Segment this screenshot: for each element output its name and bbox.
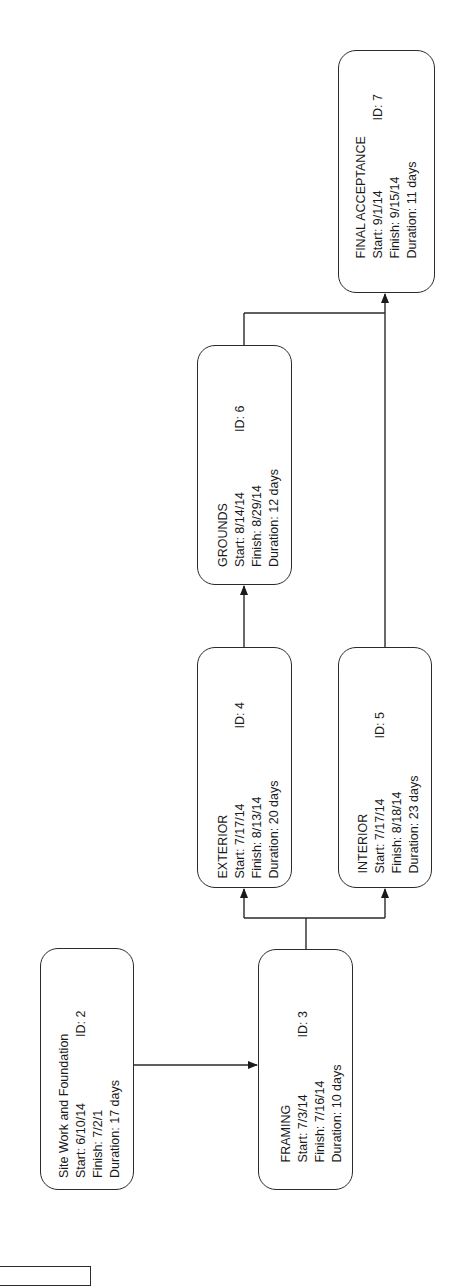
task-node-final[interactable]: FINAL ACCEPTANCEStart: 9/1/14Finish: 9/1…	[338, 50, 435, 293]
task-name: FRAMING	[277, 1104, 293, 1162]
task-name: Site Work and Foundation	[56, 1034, 72, 1178]
start-date: Start: 7/3/14	[294, 1094, 310, 1162]
task-name: FINAL ACCEPTANCE	[352, 136, 368, 258]
duration: Duration: 23 days	[406, 775, 422, 873]
duration: Duration: 17 days	[107, 1080, 123, 1178]
finish-date: Finish: 7/2/1	[90, 1110, 106, 1178]
task-id: ID: 2	[73, 1011, 89, 1037]
task-node-interior[interactable]: INTERIORStart: 7/17/14Finish: 8/18/14Dur…	[338, 647, 432, 888]
finish-date: Finish: 9/15/14	[386, 176, 402, 258]
task-id: ID: 7	[369, 94, 385, 120]
finish-date: Finish: 8/29/14	[248, 485, 264, 567]
task-id: ID: 6	[231, 406, 247, 432]
partial-frame	[0, 1266, 91, 1286]
duration: Duration: 12 days	[265, 469, 281, 567]
task-name: GROUNDS	[214, 503, 230, 567]
finish-date: Finish: 8/13/14	[248, 796, 264, 878]
task-id: ID: 3	[294, 1011, 310, 1037]
node-content: INTERIORStart: 7/17/14Finish: 8/18/14Dur…	[338, 647, 432, 888]
start-date: Start: 8/14/14	[231, 492, 247, 567]
start-date: Start: 6/10/14	[73, 1103, 89, 1178]
finish-date: Finish: 8/18/14	[389, 791, 405, 873]
finish-date: Finish: 7/16/14	[311, 1080, 327, 1162]
start-date: Start: 9/1/14	[369, 190, 385, 258]
task-node-framing[interactable]: FRAMINGStart: 7/3/14Finish: 7/16/14Durat…	[258, 949, 353, 1190]
task-id: ID: 5	[372, 712, 388, 738]
task-node-grounds[interactable]: GROUNDSStart: 8/14/14Finish: 8/29/14Dura…	[197, 345, 292, 585]
task-name: INTERIOR	[355, 813, 371, 873]
start-date: Start: 7/17/14	[231, 803, 247, 878]
node-content: Site Work and FoundationStart: 6/10/14Fi…	[40, 948, 134, 1190]
node-content: GROUNDSStart: 8/14/14Finish: 8/29/14Dura…	[197, 345, 292, 585]
task-id: ID: 4	[231, 702, 247, 728]
duration: Duration: 11 days	[403, 161, 419, 258]
duration: Duration: 10 days	[328, 1064, 344, 1162]
task-node-exterior[interactable]: EXTERIORStart: 7/17/14Finish: 8/13/14Dur…	[197, 647, 292, 888]
node-content: EXTERIORStart: 7/17/14Finish: 8/13/14Dur…	[197, 647, 292, 888]
start-date: Start: 7/17/14	[372, 798, 388, 873]
task-node-site[interactable]: Site Work and FoundationStart: 6/10/14Fi…	[40, 948, 134, 1190]
task-name: EXTERIOR	[214, 814, 230, 878]
duration: Duration: 20 days	[265, 780, 281, 878]
node-content: FRAMINGStart: 7/3/14Finish: 7/16/14Durat…	[258, 949, 353, 1190]
node-content: FINAL ACCEPTANCEStart: 9/1/14Finish: 9/1…	[338, 50, 435, 293]
